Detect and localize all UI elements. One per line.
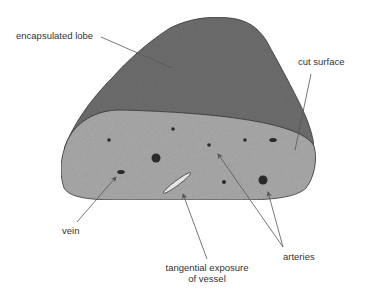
artery-dot — [259, 176, 268, 185]
label-encapsulated-lobe: encapsulated lobe — [16, 30, 93, 41]
vein-dot — [117, 170, 125, 174]
label-vein: vein — [62, 225, 79, 236]
label-tangential-line1: tangential exposure — [152, 262, 262, 273]
label-tangential-exposure: tangential exposure of vessel — [152, 262, 262, 284]
label-arteries: arteries — [283, 251, 315, 262]
label-cut-surface: cut surface — [298, 56, 344, 67]
artery-arrow-2 — [268, 192, 283, 247]
tangential-arrow — [183, 194, 207, 259]
label-tangential-line2: of vessel — [152, 273, 262, 284]
